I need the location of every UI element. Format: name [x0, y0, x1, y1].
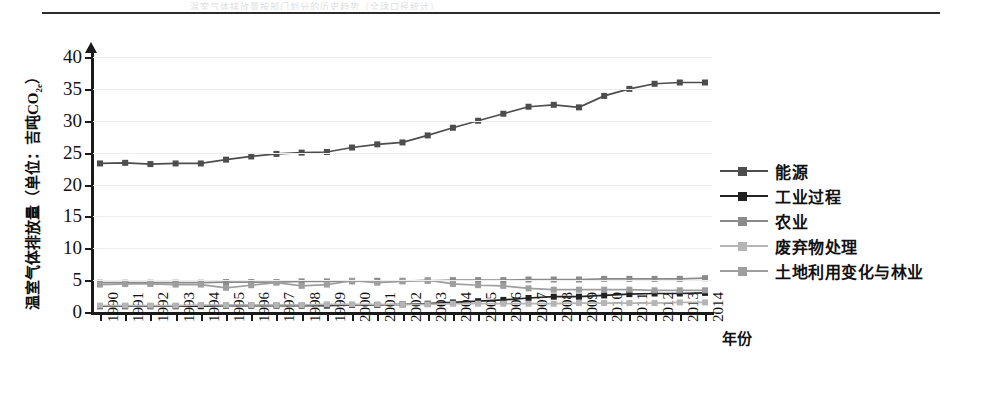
series-marker [299, 283, 305, 289]
legend-label: 农业 [775, 209, 808, 233]
series-marker [147, 303, 153, 309]
x-axis-tick-mark [604, 312, 606, 321]
series-marker [702, 80, 708, 86]
x-axis-tick-mark [125, 312, 127, 321]
series-废弃物处理 [97, 299, 708, 308]
x-axis-tick-mark [554, 312, 556, 321]
x-axis-tick-mark [327, 312, 329, 321]
x-axis-tick-mark [377, 312, 379, 321]
x-axis-tick-mark [705, 312, 707, 321]
y-axis-tick-label: 0 [48, 302, 82, 321]
x-axis-tick-mark [176, 312, 178, 321]
y-axis-tick-mark [85, 185, 92, 187]
series-marker [551, 287, 557, 293]
x-axis-tick-mark [302, 312, 304, 321]
series-marker [475, 282, 481, 288]
legend-item-1[interactable]: 工业过程 [720, 183, 982, 208]
x-axis-tick-mark [150, 312, 152, 321]
series-marker [601, 93, 607, 99]
y-axis-tick-mark [85, 89, 92, 91]
y-axis-tick-mark [85, 121, 92, 123]
y-axis-tick-label: 40 [48, 47, 82, 66]
grid-line [93, 185, 712, 186]
series-marker [526, 301, 532, 307]
series-marker [551, 301, 557, 307]
x-axis-tick-mark [655, 312, 657, 321]
series-marker [147, 281, 153, 287]
series-marker [601, 292, 607, 298]
series-marker [551, 294, 557, 300]
series-marker [324, 301, 330, 307]
legend-item-3[interactable]: 废弃物处理 [720, 233, 982, 258]
x-axis-title: 年份 [722, 327, 752, 348]
series-marker [273, 302, 279, 308]
grid-line [93, 121, 712, 122]
series-marker [299, 302, 305, 308]
x-axis-tick-mark [629, 312, 631, 321]
series-marker [223, 285, 229, 291]
y-axis-tick-label: 20 [48, 175, 82, 194]
series-marker [601, 300, 607, 306]
x-axis-tick-mark [453, 312, 455, 321]
legend-label: 土地利用变化与林业 [775, 259, 924, 283]
y-axis-tick-label: 5 [48, 270, 82, 289]
series-marker [500, 111, 506, 117]
chart-figure: 温室气体排放量按部门划分的历史趋势（全球口径统计） 温室气体排放量（单位：吉吨C… [0, 0, 986, 402]
header-rule [42, 12, 940, 14]
x-axis-tick-mark [352, 312, 354, 321]
y-axis-tick-mark [85, 153, 92, 155]
series-marker [198, 160, 204, 166]
y-axis-tick-mark [85, 216, 92, 218]
series-marker [122, 160, 128, 166]
series-marker [248, 282, 254, 288]
y-axis-tick-label: 35 [48, 79, 82, 98]
legend-label: 废弃物处理 [775, 234, 858, 258]
series-marker [626, 287, 632, 293]
legend-marker-icon [720, 239, 768, 253]
series-marker [702, 299, 708, 305]
x-axis-tick-mark [579, 312, 581, 321]
legend-item-2[interactable]: 农业 [720, 208, 982, 233]
series-marker [374, 141, 380, 147]
x-axis-tick-mark [251, 312, 253, 321]
y-axis-tick-label: 15 [48, 206, 82, 225]
series-marker [97, 160, 103, 166]
x-axis-tick-mark [680, 312, 682, 321]
series-marker [374, 301, 380, 307]
y-axis-title-main: 温室气体排放量（单位：吉吨CO [25, 93, 41, 311]
series-marker [677, 299, 683, 305]
legend-item-4[interactable]: 土地利用变化与林业 [720, 258, 982, 283]
series-marker [576, 287, 582, 293]
header-ghost-text: 温室气体排放量按部门划分的历史趋势（全球口径统计） [190, 0, 830, 10]
series-marker [349, 301, 355, 307]
series-marker [601, 287, 607, 293]
legend-marker-icon [720, 164, 768, 178]
series-marker [324, 282, 330, 288]
series-marker [702, 287, 708, 293]
series-marker [677, 287, 683, 293]
series-marker [652, 300, 658, 306]
series-marker [626, 300, 632, 306]
legend-item-0[interactable]: 能源 [720, 158, 982, 183]
legend-label: 能源 [775, 159, 808, 183]
series-marker [576, 294, 582, 300]
y-axis-tick-mark [85, 312, 92, 314]
series-marker [500, 283, 506, 289]
series-marker [526, 295, 532, 301]
series-marker [97, 303, 103, 309]
series-marker [248, 302, 254, 308]
series-marker [198, 282, 204, 288]
series-marker [349, 145, 355, 151]
grid-line [93, 280, 712, 281]
series-marker [677, 80, 683, 86]
series-marker [248, 153, 254, 159]
series-marker [450, 125, 456, 131]
y-axis-tick-label: 25 [48, 143, 82, 162]
series-marker [652, 287, 658, 293]
x-axis-tick-mark [276, 312, 278, 321]
series-marker [652, 81, 658, 87]
series-marker [223, 302, 229, 308]
series-marker [173, 303, 179, 309]
y-axis-title: 温室气体排放量（单位：吉吨CO2e） [21, 40, 44, 340]
legend-label: 工业过程 [775, 184, 841, 208]
